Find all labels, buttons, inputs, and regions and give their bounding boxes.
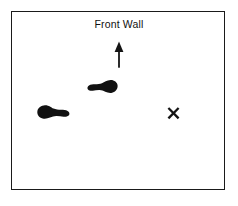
- room-boundary: [11, 11, 225, 190]
- footprint-lower: [36, 104, 70, 123]
- floor-plan-diagram: Front Wall: [0, 0, 238, 206]
- footprint-upper: [87, 79, 118, 97]
- direction-arrow: [112, 41, 126, 68]
- front-wall-label: Front Wall: [0, 18, 238, 30]
- target-x-marker: [166, 106, 181, 121]
